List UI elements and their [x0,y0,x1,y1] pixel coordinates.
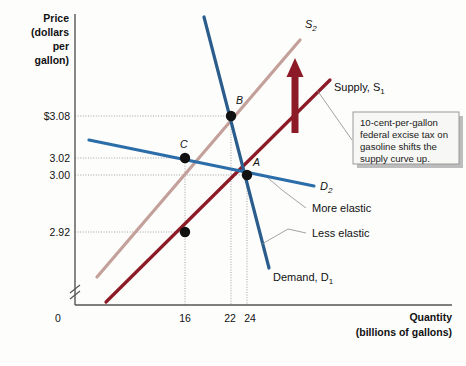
curve-label-d2-text: D [320,180,328,192]
chart-canvas: A B C $3.08 3.02 3.00 2.92 16 22 24 0 Pr… [0,0,466,366]
note-more-elastic: More elastic [312,202,372,214]
leader-callout [317,90,352,140]
x-tick-label-22: 22 [224,312,236,324]
point-b-dot [226,111,236,121]
curve-label-d1-sub: 1 [329,277,334,286]
y-tick-label-300: 3.00 [50,169,71,181]
curve-label-d1: Demand, D1 [273,271,334,286]
note-less-elastic: Less elastic [312,227,370,239]
curve-label-s2-sub: 2 [311,24,317,33]
y-axis-title-line-4: gallon) [35,54,69,66]
y-tick-label-302: 3.02 [50,152,71,164]
point-a-dot [242,170,252,180]
x-axis-title: Quantity (billions of gallons) [356,311,452,338]
callout-box: 10-cent-per-gallon federal excise tax on… [353,112,463,168]
x-axis-title-line-1: Quantity [409,311,452,323]
point-c-dot [180,153,190,163]
curve-label-s1-sub: 1 [380,87,385,96]
callout-line-1: 10-cent-per-gallon [360,117,438,128]
leader-less-elastic [262,229,306,244]
curve-label-d2-sub: 2 [327,186,333,195]
curve-label-d2: D2 [320,180,333,195]
callout-line-4: supply curve up. [360,153,430,164]
curve-s2 [97,40,300,277]
origin-label: 0 [55,312,61,324]
economics-supply-demand-figure: A B C $3.08 3.02 3.00 2.92 16 22 24 0 Pr… [0,0,466,366]
point-d-dot [180,227,190,237]
point-label-b: B [236,94,243,106]
callout-line-3: gasoline shifts the [360,141,437,152]
gridlines-group [75,116,247,305]
y-tick-label-308: $3.08 [44,110,70,122]
curve-label-s2: S2 [305,18,317,33]
y-axis-title-line-2: (dollars [31,26,69,38]
point-label-c: C [180,138,188,150]
x-axis-title-line-2: (billions of gallons) [356,326,452,338]
curve-d2 [89,140,314,186]
x-tick-label-16: 16 [179,312,191,324]
x-tick-label-24: 24 [244,312,256,324]
y-tick-label-292: 2.92 [50,226,71,238]
curve-label-d1-text: Demand, D [273,271,329,283]
curve-label-s1: Supply, S1 [334,81,385,96]
y-axis-title: Price (dollars per gallon) [31,12,69,66]
callout-line-2: federal excise tax on [360,129,448,140]
y-axis-title-line-3: per [53,40,69,52]
curve-label-s1-text: Supply, S [334,81,380,93]
point-label-a: A [252,156,260,168]
y-axis-title-line-1: Price [43,12,69,24]
